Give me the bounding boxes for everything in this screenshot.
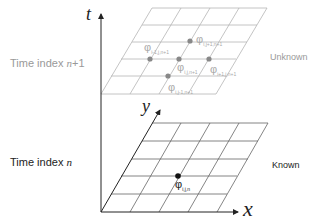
x-axis-label: x — [243, 196, 253, 219]
phi-i-j-1-n+1-label: φi,j-1,n+1 — [168, 81, 193, 95]
y-axis-label: y — [142, 96, 150, 117]
y-axis — [101, 110, 160, 212]
phi-i-j+1-n+1-label: φi,j+1,n+1 — [196, 33, 222, 47]
phi-i-1-j-n+1-label: φi-1,j,n+1 — [144, 41, 169, 55]
phi-i-j-n-label: φi,j,n — [175, 178, 190, 192]
phi-i+1-j-n+1-label: φi+1,j,n+1 — [210, 63, 236, 77]
t-axis-label: t — [86, 4, 91, 25]
time-index-upper-label: Time index n+1 — [10, 57, 85, 69]
unknown-label: Unknown — [270, 52, 308, 62]
known-label: Known — [272, 160, 300, 170]
phi-i-j-n+1-label: φi,j,n+1 — [177, 61, 198, 75]
time-index-lower-label: Time index n — [10, 156, 72, 168]
grid-diagram — [0, 0, 316, 219]
